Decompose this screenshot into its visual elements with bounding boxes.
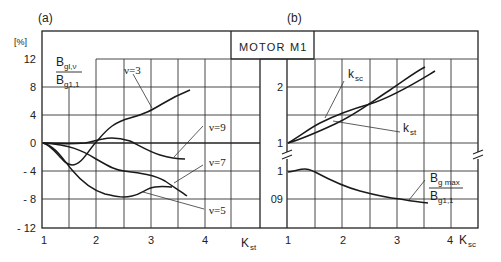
svg-text:09: 09 [271, 193, 283, 205]
svg-text:8: 8 [30, 81, 36, 93]
kst-label: k [403, 121, 410, 135]
ratio-den-sub: g1,1 [438, 196, 454, 205]
ratio-den: B [430, 189, 438, 203]
svg-text:4: 4 [202, 234, 208, 246]
curve-v3 [43, 90, 190, 165]
panel-a-x-label: K st [241, 236, 257, 252]
svg-text:4: 4 [30, 109, 36, 121]
svg-text:1: 1 [277, 165, 283, 177]
svg-text:- 8: - 8 [23, 193, 36, 205]
panel-a-x-ticks: 1 2 3 4 [41, 234, 208, 246]
panel-b-x-ticks: 1 2 3 4 [285, 234, 453, 246]
ksc-sub: sc [355, 74, 363, 83]
label-v7: ν=7 [209, 156, 226, 168]
panel-b-x-label: K sc [459, 233, 476, 249]
svg-text:4: 4 [447, 234, 453, 246]
svg-text:- 4: - 4 [23, 165, 36, 177]
panel-a-label: (a) [38, 11, 53, 25]
label-v5: ν=5 [209, 204, 226, 216]
curve-v7 [43, 143, 187, 196]
svg-text:12: 12 [24, 53, 36, 65]
svg-text:2: 2 [93, 234, 99, 246]
svg-text:2: 2 [277, 81, 283, 93]
svg-text:B: B [56, 73, 64, 87]
chart-title: MOTOR M1 [239, 41, 308, 53]
ksc-label: k [348, 67, 355, 81]
svg-text:0: 0 [30, 137, 36, 149]
curve-bgmax-ratio [288, 169, 428, 203]
svg-text:1: 1 [41, 234, 47, 246]
svg-text:3: 3 [394, 234, 400, 246]
motor-m1-figure: (a) (b) MOTOR M1 [%] 12 8 4 0 - 4 - 8 [0, 0, 501, 262]
svg-text:1: 1 [277, 137, 283, 149]
label-v9: ν=9 [209, 121, 226, 133]
curve-v9 [43, 138, 185, 159]
svg-text:2: 2 [340, 234, 346, 246]
panel-a-y-label: B gl,ν B g1,1 [56, 55, 82, 89]
svg-text:sc: sc [468, 240, 476, 249]
svg-text:1: 1 [285, 234, 291, 246]
svg-text:3: 3 [148, 234, 154, 246]
panel-a-y-ticks: 12 8 4 0 - 4 - 8 - 12 [17, 53, 36, 234]
label-v3: ν=3 [124, 64, 141, 76]
panel-b-label: (b) [287, 11, 302, 25]
curve-v5 [43, 143, 172, 197]
ratio-num: B [430, 171, 438, 185]
svg-text:gl,ν: gl,ν [64, 62, 76, 71]
svg-text:g1,1: g1,1 [64, 80, 80, 89]
y-unit-label: [%] [14, 37, 27, 47]
axis-break-marks [282, 150, 483, 159]
svg-text:K: K [459, 233, 467, 247]
kst-sub: st [410, 128, 417, 137]
svg-text:- 12: - 12 [17, 222, 36, 234]
svg-text:B: B [56, 55, 64, 69]
ratio-num-sub: g max [438, 178, 460, 187]
svg-text:K: K [241, 236, 249, 250]
svg-text:st: st [250, 243, 257, 252]
panel-b-y-ticks: 2 1 1 09 [271, 81, 283, 205]
